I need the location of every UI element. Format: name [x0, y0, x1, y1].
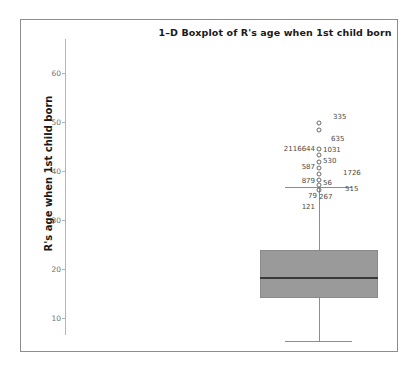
lower-whisker	[319, 298, 320, 341]
outlier-1031	[317, 153, 322, 158]
outlier-2116644	[317, 147, 322, 152]
outlier-label-335: 335	[333, 113, 346, 121]
outlier-label-879: 879	[302, 177, 315, 185]
y-tick-label-50: 50	[51, 118, 61, 127]
outlier-335-a	[317, 121, 322, 126]
median-line	[260, 277, 378, 279]
lower-whisker-cap	[285, 341, 352, 342]
outlier-label-267: 267	[319, 193, 332, 201]
y-tick-label-20: 20	[51, 265, 61, 274]
outlier-label-56: 56	[323, 179, 332, 187]
outlier-587	[317, 166, 322, 171]
y-tick-label-60: 60	[51, 69, 61, 78]
figure-frame: 1–D Boxplot of R's age when 1st child bo…	[20, 19, 398, 352]
y-tick-label-30: 30	[51, 216, 61, 225]
y-tick-label-10: 10	[51, 314, 61, 323]
outlier-530	[317, 160, 322, 165]
y-tick-label-40: 40	[51, 167, 61, 176]
outlier-label-1031: 1031	[323, 146, 341, 154]
plot-area: 605040302010 335635211664410315305871726…	[65, 37, 395, 337]
outlier-label-635: 635	[331, 135, 344, 143]
outlier-1726	[317, 172, 322, 177]
boxplot-group: 3356352116644103153058717268795651579267…	[65, 37, 395, 337]
outlier-label-1726: 1726	[343, 169, 361, 177]
outlier-label-2116644: 2116644	[284, 145, 315, 153]
outlier-label-587: 587	[302, 163, 315, 171]
box-iqr-rect	[260, 250, 378, 298]
outlier-515	[317, 188, 322, 193]
outlier-335-b	[317, 128, 322, 133]
outlier-label-515: 515	[345, 185, 358, 193]
outlier-label-79: 79	[308, 192, 317, 200]
outlier-label-121: 121	[302, 203, 315, 211]
outlier-label-530: 530	[323, 157, 336, 165]
